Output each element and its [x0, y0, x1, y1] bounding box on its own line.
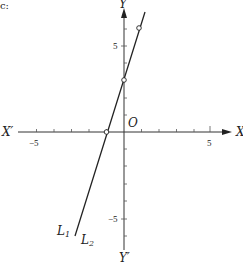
y-negative-axis-label: Y′ [119, 251, 130, 265]
y-tick-label-neg5: −5 [108, 214, 118, 224]
point-1-6 [137, 26, 142, 31]
point-x-intercept [104, 130, 109, 135]
x-tick-label-5: 5 [207, 138, 212, 148]
x-axis-label: X [235, 125, 243, 139]
line-label-l2: L2 [80, 233, 94, 248]
y-axis [121, 8, 127, 250]
x-tick-label-neg5: −5 [29, 138, 39, 148]
line-label-l1: L1 [56, 224, 70, 239]
y-axis-label: Y [119, 0, 128, 11]
y-tick-label-5: 5 [113, 41, 118, 51]
x-axis-arrow-icon [222, 129, 232, 135]
origin-label: O [128, 116, 138, 130]
x-axis [18, 126, 232, 135]
corner-fragment: c: [0, 0, 9, 11]
point-y-intercept [122, 78, 127, 83]
coordinate-diagram: c: [0, 0, 243, 265]
x-negative-axis-label: X′ [1, 125, 14, 139]
